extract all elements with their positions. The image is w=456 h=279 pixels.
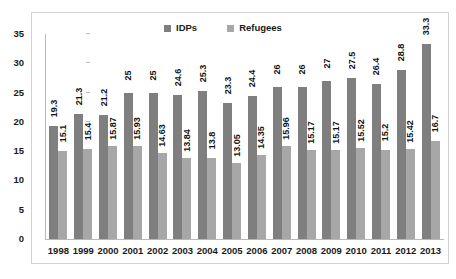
bar-group: 27.515.52 (347, 34, 365, 239)
bar-group: 2615.17 (298, 34, 316, 239)
legend-label: IDPs (176, 23, 197, 33)
bar-refugees-2006: 14.35 (257, 155, 266, 239)
bar-value-label: 24.6 (173, 69, 182, 87)
bar-value-label: 16.7 (431, 115, 440, 133)
x-axis-label-2001: 2001 (120, 244, 145, 257)
bar-value-label: 15.52 (356, 119, 365, 142)
y-axis-tick-label: 20 (0, 116, 24, 127)
x-axis-label-1999: 1999 (71, 244, 96, 257)
legend-label: Refugees (239, 23, 282, 33)
x-axis-label-2006: 2006 (245, 244, 270, 257)
bar-value-label: 26.4 (372, 58, 381, 76)
bar-value-label: 25 (149, 70, 158, 80)
bar-group: 25.313.8 (198, 34, 216, 239)
y-axis-tick-label: 25 (0, 87, 24, 98)
x-axis-label-2004: 2004 (195, 244, 220, 257)
bar-value-label: 15.17 (307, 121, 316, 144)
x-axis-labels: 1998199920002001200220032004200520062007… (46, 244, 443, 260)
x-axis-label-2000: 2000 (96, 244, 121, 257)
bar-idps-2003: 24.6 (173, 95, 182, 239)
bar-value-label: 15.17 (331, 121, 340, 144)
x-axis-label-2005: 2005 (220, 244, 245, 257)
bar-refugees-2009: 15.17 (331, 150, 340, 239)
bar-refugees-2012: 15.42 (406, 149, 415, 239)
bar-value-label: 26 (298, 64, 307, 74)
bar-value-label: 15.1 (58, 124, 67, 142)
y-axis-tick-label: 35 (0, 28, 24, 39)
bar-value-label: 15.2 (381, 124, 390, 142)
bar-refugees-1999: 15.4 (83, 149, 92, 239)
bar-refugees-2003: 13.84 (182, 158, 191, 239)
bar-refugees-2011: 15.2 (381, 150, 390, 239)
bar-idps-2002: 25 (149, 93, 158, 239)
bar-group: 2615.96 (273, 34, 291, 239)
bar-value-label: 21.2 (99, 89, 108, 107)
y-axis-tick-label: 0 (0, 233, 24, 244)
bar-value-label: 33.3 (422, 18, 431, 36)
bar-idps-2013: 33.3 (422, 44, 431, 239)
x-axis-line (45, 239, 444, 240)
bar-idps-2008: 26 (298, 87, 307, 239)
bar-idps-2012: 28.8 (397, 70, 406, 239)
x-axis-label-2009: 2009 (319, 244, 344, 257)
bar-group: 21.215.87 (99, 34, 117, 239)
bar-group: 23.313.05 (223, 34, 241, 239)
bar-value-label: 13.8 (207, 132, 216, 150)
x-axis-label-2007: 2007 (269, 244, 294, 257)
legend-swatch-icon (227, 25, 234, 32)
bar-value-label: 21.3 (74, 88, 83, 106)
bar-group: 26.415.2 (372, 34, 390, 239)
bar-group: 33.316.7 (422, 34, 440, 239)
bar-group: 2515.93 (124, 34, 142, 239)
bar-value-label: 15.4 (83, 123, 92, 141)
bar-value-label: 15.87 (108, 117, 117, 140)
x-axis-label-2008: 2008 (294, 244, 319, 257)
bar-idps-2001: 25 (124, 93, 133, 239)
x-axis-label-2013: 2013 (418, 244, 443, 257)
chart-legend: IDPsRefugees (164, 22, 282, 34)
bar-refugees-2005: 13.05 (232, 163, 241, 239)
bar-value-label: 24.4 (248, 70, 257, 88)
x-axis-label-2010: 2010 (344, 244, 369, 257)
bar-idps-1998: 19.3 (49, 126, 58, 239)
x-axis-label-2011: 2011 (369, 244, 394, 257)
bar-value-label: 27.5 (347, 52, 356, 70)
bar-idps-2007: 26 (273, 87, 282, 239)
legend-entry-refugees: Refugees (227, 23, 282, 33)
x-axis-label-2012: 2012 (393, 244, 418, 257)
bar-value-label: 26 (273, 64, 282, 74)
x-axis-label-2002: 2002 (145, 244, 170, 257)
bar-value-label: 19.3 (49, 100, 58, 118)
bar-value-label: 28.8 (397, 44, 406, 62)
bar-chart-figure: IDPsRefugees 05101520253035 19.315.121.3… (0, 0, 456, 279)
bar-refugees-2008: 15.17 (307, 150, 316, 239)
bar-group: 2514.63 (149, 34, 167, 239)
bar-value-label: 25 (124, 70, 133, 80)
bar-group: 2715.17 (322, 34, 340, 239)
bar-value-label: 15.96 (282, 117, 291, 140)
bar-value-label: 14.35 (257, 126, 266, 149)
bar-value-label: 15.93 (133, 117, 142, 140)
bar-value-label: 23.3 (223, 76, 232, 94)
bar-group: 24.414.35 (248, 34, 266, 239)
y-axis-tick-label: 5 (0, 204, 24, 215)
x-axis-label-1998: 1998 (46, 244, 71, 257)
bar-value-label: 13.05 (232, 134, 241, 157)
bar-idps-2011: 26.4 (372, 84, 381, 239)
bar-group: 24.613.84 (173, 34, 191, 239)
bar-idps-2009: 27 (322, 81, 331, 239)
bar-refugees-2004: 13.8 (207, 158, 216, 239)
bar-group: 19.315.1 (49, 34, 67, 239)
y-axis-tick-label: 10 (0, 174, 24, 185)
bar-refugees-2013: 16.7 (431, 141, 440, 239)
bar-refugees-2001: 15.93 (133, 146, 142, 239)
bar-idps-2006: 24.4 (248, 96, 257, 239)
bar-value-label: 25.3 (198, 65, 207, 83)
bar-value-label: 13.84 (182, 129, 191, 152)
bars-layer: 19.315.121.315.421.215.872515.932514.632… (46, 34, 443, 239)
x-axis-label-2003: 2003 (170, 244, 195, 257)
bar-idps-2010: 27.5 (347, 78, 356, 239)
bar-value-label: 14.63 (158, 125, 167, 148)
bar-refugees-1998: 15.1 (58, 151, 67, 239)
legend-swatch-icon (164, 25, 171, 32)
